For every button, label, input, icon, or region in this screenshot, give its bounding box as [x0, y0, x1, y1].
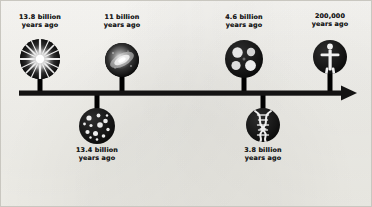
label-origin-of-life: 3.8 billion years ago — [230, 147, 296, 162]
time-arrow-shaft — [19, 91, 346, 96]
big-bang-burst-icon — [18, 37, 62, 81]
solar-system-icon — [225, 40, 263, 78]
timeline-diagram: 13.8 billion years ago 13.4 billion year… — [0, 0, 372, 207]
human-figure-icon — [313, 40, 347, 76]
time-arrow-head — [341, 86, 357, 101]
label-first-stars: 13.4 billion years ago — [63, 147, 131, 162]
label-solar-system: 4.6 billion years ago — [211, 14, 277, 29]
label-big-bang: 13.8 billion years ago — [6, 14, 74, 29]
spiral-galaxy-icon — [105, 43, 139, 77]
time-arrow — [19, 86, 357, 101]
star-cluster-icon — [79, 108, 115, 144]
dna-helix-icon — [246, 108, 280, 143]
label-modern-humans: 200,000 years ago — [298, 13, 362, 28]
timeline-canvas — [1, 1, 372, 207]
label-milky-way: 11 billion years ago — [90, 14, 154, 29]
